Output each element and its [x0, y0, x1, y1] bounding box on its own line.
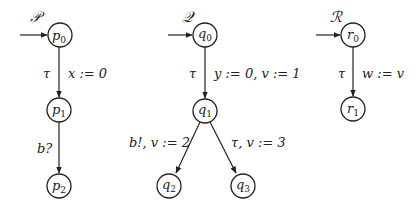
label-p1-p2-action: b? [37, 141, 53, 156]
label-r0-r1-update: w := v [362, 66, 405, 81]
state-q3: q3 [231, 174, 255, 198]
label-p0-p1-action: τ [43, 66, 51, 81]
automaton-q-name: 𝒬 [182, 8, 195, 26]
label-q1-q2: b!, v := 2 [129, 135, 190, 150]
state-r0: r0 [341, 23, 365, 47]
label-r0-r1-action: τ [338, 66, 346, 81]
automaton-r-name: ℛ [330, 8, 343, 26]
state-q0: q0 [193, 23, 217, 47]
state-p1: p1 [47, 98, 71, 122]
label-q0-q1-action: τ [189, 66, 197, 81]
automaton-q: 𝒬 τ y := 0, v := 1 b!, v := 2 τ, v := 3 … [129, 8, 301, 198]
automaton-r: ℛ τ w := v r0 r1 [316, 8, 405, 121]
label-q0-q1-update: y := 0, v := 1 [213, 66, 301, 81]
state-r1: r1 [341, 97, 365, 121]
automata-diagram: 𝒫 τ x := 0 b? p0 p1 p2 𝒬 τ y := 0, v := … [0, 0, 417, 214]
label-p0-p1-update: x := 0 [68, 66, 107, 81]
state-q1: q1 [193, 99, 217, 123]
state-q2: q2 [157, 174, 181, 198]
automaton-p-name: 𝒫 [30, 8, 45, 26]
label-q1-q3: τ, v := 3 [231, 135, 286, 150]
automaton-p: 𝒫 τ x := 0 b? p0 p1 p2 [20, 8, 107, 198]
state-p0: p0 [48, 23, 72, 47]
state-p2: p2 [47, 174, 71, 198]
